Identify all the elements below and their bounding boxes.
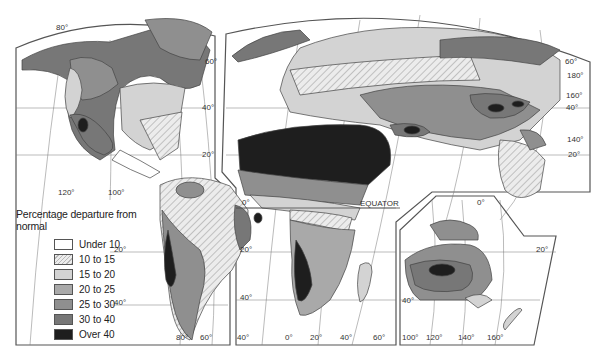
svg-text:160°: 160° [487, 333, 504, 342]
svg-text:40°: 40° [202, 103, 214, 112]
legend-swatch [54, 299, 73, 310]
svg-text:40°: 40° [402, 296, 414, 305]
svg-text:40°: 40° [340, 333, 352, 342]
svg-text:80°: 80° [176, 333, 188, 342]
legend: Percentage departure from normal Under 1… [16, 208, 166, 342]
svg-text:100°: 100° [108, 188, 125, 197]
svg-text:120°: 120° [58, 188, 75, 197]
svg-text:0°: 0° [285, 333, 293, 342]
legend-label: 25 to 30 [79, 299, 115, 310]
legend-swatch [54, 329, 73, 340]
legend-item: 15 to 20 [54, 267, 166, 282]
legend-swatch [54, 284, 73, 295]
legend-item: 20 to 25 [54, 282, 166, 297]
svg-text:40°: 40° [240, 293, 252, 302]
svg-text:20°: 20° [568, 150, 580, 159]
legend-item: 25 to 30 [54, 297, 166, 312]
svg-text:100°: 100° [402, 333, 419, 342]
svg-text:0°: 0° [477, 198, 485, 207]
legend-label: Over 40 [79, 329, 115, 340]
svg-text:40°: 40° [566, 103, 578, 112]
legend-label: 20 to 25 [79, 284, 115, 295]
svg-text:160°: 160° [566, 91, 583, 100]
svg-text:140°: 140° [458, 333, 475, 342]
svg-text:40°: 40° [237, 333, 249, 342]
svg-text:20°: 20° [240, 245, 252, 254]
svg-text:20°: 20° [202, 150, 214, 159]
legend-label: Under 10 [79, 239, 120, 250]
svg-text:60°: 60° [200, 333, 212, 342]
svg-text:60°: 60° [565, 57, 577, 66]
svg-text:60°: 60° [205, 57, 217, 66]
legend-label: 10 to 15 [79, 254, 115, 265]
svg-text:0°: 0° [242, 198, 250, 207]
legend-item: Over 40 [54, 327, 166, 342]
equator-label: EQUATOR [360, 199, 399, 208]
legend-item: Under 10 [54, 237, 166, 252]
svg-text:140°: 140° [567, 135, 584, 144]
svg-text:20°: 20° [536, 245, 548, 254]
legend-item: 10 to 15 [54, 252, 166, 267]
svg-text:80°: 80° [56, 23, 68, 32]
legend-swatch [54, 254, 73, 265]
svg-text:120°: 120° [426, 333, 443, 342]
legend-title: Percentage departure from normal [16, 208, 166, 232]
svg-text:180°: 180° [567, 71, 584, 80]
legend-swatch [54, 239, 73, 250]
svg-text:20°: 20° [310, 333, 322, 342]
legend-swatch [54, 314, 73, 325]
legend-swatch [54, 269, 73, 280]
legend-label: 15 to 20 [79, 269, 115, 280]
legend-label: 30 to 40 [79, 314, 115, 325]
legend-item: 30 to 40 [54, 312, 166, 327]
svg-text:60°: 60° [373, 333, 385, 342]
